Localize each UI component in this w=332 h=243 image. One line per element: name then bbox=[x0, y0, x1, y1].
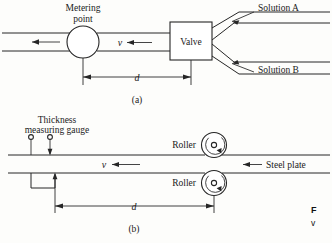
solution-a-label: Solution A bbox=[258, 3, 299, 13]
panel-b-group: Thickness measuring gauge Roller Roller … bbox=[8, 115, 330, 235]
gauge-probe-right-icon bbox=[48, 135, 53, 156]
solution-b-label: Solution B bbox=[258, 65, 299, 75]
caption-second-line: v bbox=[311, 218, 316, 228]
steel-plate-arrow-icon bbox=[243, 162, 262, 167]
roller-bottom bbox=[202, 171, 227, 196]
roller-top bbox=[202, 133, 227, 158]
velocity-label-b: v bbox=[102, 159, 107, 170]
gauge-probe-left-icon bbox=[29, 135, 34, 155]
valve-label: Valve bbox=[180, 37, 202, 47]
solution-a-pipe-top-wall bbox=[212, 12, 330, 28]
left-flow-arrow-icon bbox=[32, 39, 60, 44]
metering-point-label-line2: point bbox=[73, 14, 93, 24]
panel-b-tag: (b) bbox=[128, 224, 139, 235]
metering-point-circle bbox=[67, 26, 99, 58]
roller-bottom-label: Roller bbox=[172, 178, 197, 188]
gauge-label-line1: Thickness bbox=[38, 115, 77, 125]
figure-page: Metering point Valve Solution A Solution… bbox=[0, 0, 332, 243]
technical-figure: Metering point Valve Solution A Solution… bbox=[0, 0, 332, 243]
velocity-arrow-b-icon bbox=[112, 162, 140, 167]
caption-prefix: F bbox=[311, 205, 317, 215]
metering-point-label-line1: Metering bbox=[66, 3, 101, 13]
panel-a-tag: (a) bbox=[132, 95, 143, 106]
solution-a-pipe-bottom-wall bbox=[212, 23, 330, 40]
velocity-label-a: v bbox=[118, 37, 123, 48]
figure-caption: F v bbox=[311, 205, 317, 228]
distance-label-b: d bbox=[132, 201, 138, 212]
distance-label-a: d bbox=[135, 72, 141, 83]
gauge-bracket bbox=[31, 173, 55, 188]
roller-top-label: Roller bbox=[172, 140, 197, 150]
panel-a-group: Metering point Valve Solution A Solution… bbox=[2, 3, 330, 106]
velocity-arrow-a-icon bbox=[127, 40, 152, 45]
steel-plate-label: Steel plate bbox=[266, 160, 306, 170]
gauge-label-line2: measuring gauge bbox=[25, 125, 90, 135]
solution-b-pipe-top-wall bbox=[212, 44, 330, 62]
